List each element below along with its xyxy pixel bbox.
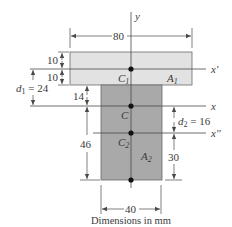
label-c: C <box>121 109 129 121</box>
dim-web-width: 40 <box>125 203 137 215</box>
y-axis-label: y <box>134 10 140 22</box>
centroid-c2-dot <box>128 130 133 135</box>
x-double-prime-axis-label: x'' <box>210 127 221 139</box>
dim-flange-to-centroid: 14 <box>73 90 85 102</box>
dim-d2: d2 = 16 <box>178 115 211 129</box>
x-prime-axis-label: x' <box>210 63 219 75</box>
dim-flange-width: 80 <box>113 30 125 42</box>
dim-d1: d1 = 24 <box>16 82 49 96</box>
dim-flange-bottom-half: 10 <box>47 71 59 83</box>
dim-c2-to-bottom: 30 <box>168 151 180 163</box>
x-axis-label: x <box>210 100 216 112</box>
dim-centroid-to-bottom: 46 <box>80 138 92 150</box>
caption: Dimensions in mm <box>91 215 171 226</box>
t-section-diagram: y x' x x'' C1 A1 C C2 A2 80 10 10 d1 = 2… <box>0 0 232 227</box>
centroid-c-dot <box>128 103 133 108</box>
bottom-dot <box>128 177 133 182</box>
centroid-c1-dot <box>128 66 133 71</box>
dim-flange-top-half: 10 <box>47 54 59 66</box>
